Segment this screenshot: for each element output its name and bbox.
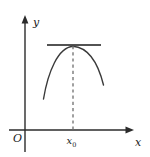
y-axis-label: y: [32, 16, 40, 29]
x-axis-label: x: [135, 136, 142, 149]
origin-label: O: [13, 132, 22, 145]
figure-container: y x O x0: [0, 0, 150, 157]
x0-tick-subscript: 0: [72, 141, 76, 149]
x0-tick-label: x0: [67, 135, 77, 149]
coordinate-diagram: y x O x0: [0, 0, 150, 157]
y-axis-arrowhead: [22, 15, 29, 24]
x-axis-arrowhead: [126, 127, 135, 134]
